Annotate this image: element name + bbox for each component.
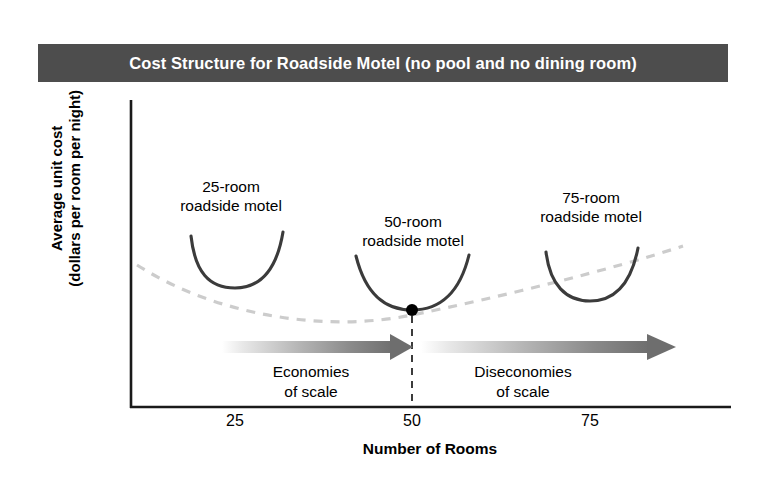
minimum-efficient-scale-dot: [406, 304, 418, 316]
curve-label-25-room: 25-room roadside motel: [141, 177, 321, 216]
curve-label-50-room: 50-room roadside motel: [323, 212, 503, 251]
figure-container: Cost Structure for Roadside Motel (no po…: [0, 0, 767, 484]
x-tick-label-50: 50: [377, 412, 447, 430]
sarc-curve-50-room: [356, 255, 469, 310]
curve-label-50-room-line2: roadside motel: [323, 231, 503, 250]
curve-label-50-room-line1: 50-room: [323, 212, 503, 231]
diseconomies-of-scale-line1: Diseconomies: [423, 362, 623, 382]
economies-of-scale-arrow: [222, 334, 413, 360]
curve-label-75-room-line2: roadside motel: [501, 207, 681, 226]
economies-of-scale-line1: Economies: [211, 362, 411, 382]
x-axis-title: Number of Rooms: [130, 440, 730, 458]
y-axis-title: Average unit cost (dollars per room per …: [48, 58, 85, 318]
sarc-curve-25-room: [191, 232, 283, 288]
diseconomies-of-scale-line2: of scale: [423, 382, 623, 402]
sarc-curve-75-room: [546, 248, 638, 301]
economies-of-scale-label: Economies of scale: [211, 362, 411, 402]
x-tick-label-25: 25: [200, 412, 270, 430]
y-axis-title-line1: Average unit cost: [48, 58, 66, 318]
y-axis-title-line2: (dollars per room per night): [66, 58, 84, 318]
diseconomies-of-scale-label: Diseconomies of scale: [423, 362, 623, 402]
economies-of-scale-line2: of scale: [211, 382, 411, 402]
curve-label-25-room-line2: roadside motel: [141, 196, 321, 215]
curve-label-75-room-line1: 75-room: [501, 188, 681, 207]
curve-label-75-room: 75-room roadside motel: [501, 188, 681, 227]
diseconomies-of-scale-arrow: [421, 334, 676, 360]
x-tick-label-75: 75: [555, 412, 625, 430]
curve-label-25-room-line1: 25-room: [141, 177, 321, 196]
